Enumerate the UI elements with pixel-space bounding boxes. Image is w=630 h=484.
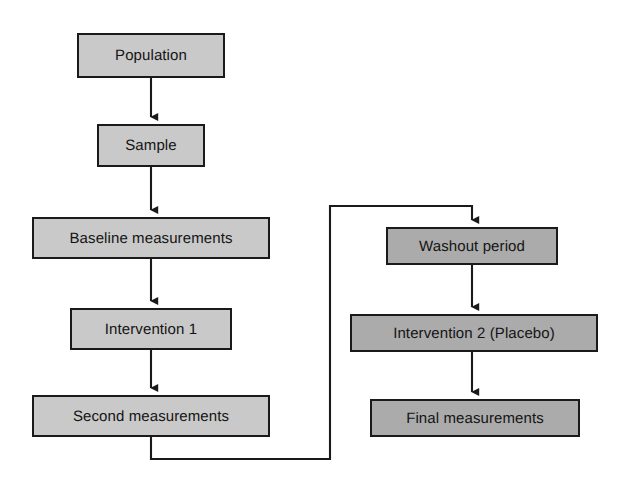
node-second-measurements-label: Second measurements [73, 409, 229, 424]
node-intervention-1[interactable]: Intervention 1 [70, 308, 232, 350]
node-baseline-measurements-label: Baseline measurements [69, 231, 232, 246]
node-intervention-2-placebo[interactable]: Intervention 2 (Placebo) [350, 314, 598, 352]
node-sample[interactable]: Sample [97, 124, 205, 167]
node-intervention-1-label: Intervention 1 [105, 322, 197, 337]
node-final-measurements-label: Final measurements [406, 411, 544, 426]
node-washout-period-label: Washout period [419, 239, 525, 254]
flowchart-canvas: Population Sample Baseline measurements … [0, 0, 630, 484]
node-washout-period[interactable]: Washout period [386, 227, 558, 265]
node-intervention-2-placebo-label: Intervention 2 (Placebo) [393, 326, 555, 341]
node-population[interactable]: Population [77, 33, 225, 78]
node-final-measurements[interactable]: Final measurements [370, 399, 580, 437]
node-baseline-measurements[interactable]: Baseline measurements [32, 217, 270, 259]
node-second-measurements[interactable]: Second measurements [32, 395, 270, 437]
node-population-label: Population [115, 48, 187, 63]
node-sample-label: Sample [125, 138, 176, 153]
